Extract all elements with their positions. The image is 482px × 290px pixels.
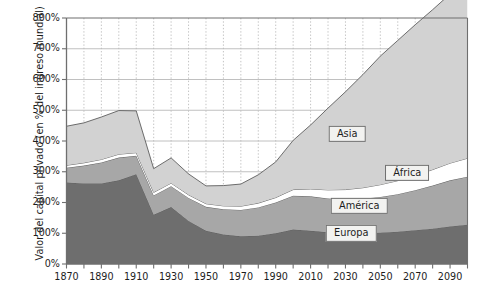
series-label-asia: Asia [329, 125, 366, 141]
chart-canvas [0, 0, 482, 290]
capital-share-area-chart: Valor del capital privado (en % del ingr… [0, 0, 482, 290]
x-tick-label: 2090 [428, 271, 472, 282]
y-tick-label: 700% [20, 42, 60, 53]
y-tick-label: 200% [20, 196, 60, 207]
y-tick-label: 500% [20, 104, 60, 115]
y-tick-label: 100% [20, 227, 60, 238]
right-margin-mask [468, 0, 482, 290]
y-tick-label: 400% [20, 135, 60, 146]
series-label-africa: África [385, 165, 429, 181]
y-tick-label: 800% [20, 12, 60, 23]
series-label-america: América [331, 198, 387, 214]
series-label-europa: Europa [326, 225, 376, 241]
y-tick-label: 0% [20, 258, 60, 269]
y-tick-label: 300% [20, 165, 60, 176]
y-tick-label: 600% [20, 73, 60, 84]
